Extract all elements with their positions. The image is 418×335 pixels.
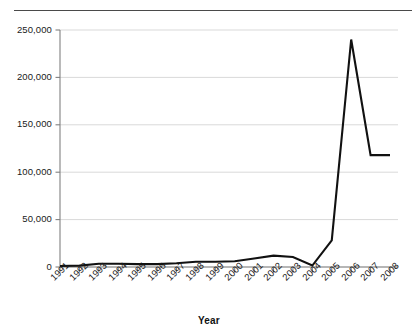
y-axis-tick-label: 200,000 (17, 71, 52, 82)
y-axis-tick-label: 100,000 (17, 166, 52, 177)
y-axis-tick-label: 50,000 (22, 213, 52, 224)
x-axis-title: Year (0, 315, 418, 326)
y-axis-tick-label: 250,000 (17, 24, 52, 35)
chart-figure: 050,000100,000150,000200,000250,000 1991… (0, 0, 418, 335)
y-axis-ticks (56, 30, 61, 267)
line-chart-plot (0, 0, 418, 335)
gridlines (60, 30, 398, 267)
y-axis-tick-label: 150,000 (17, 118, 52, 129)
data-series-line (60, 39, 390, 266)
